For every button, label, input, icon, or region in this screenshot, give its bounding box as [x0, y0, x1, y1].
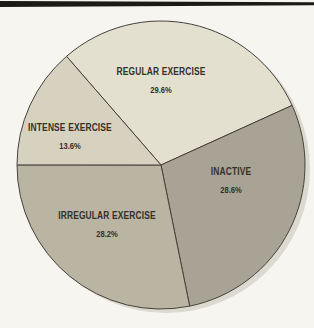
slice-percent: 29.6%	[117, 85, 206, 95]
slice-percent: 28.2%	[58, 229, 156, 239]
slice-label-regular-exercise: REGULAR EXERCISE 29.6%	[105, 66, 216, 95]
slice-name: INACTIVE	[211, 166, 251, 177]
pie-chart-figure: REGULAR EXERCISE 29.6% INACTIVE 28.6% IR…	[0, 0, 314, 328]
slice-name: IRREGULAR EXERCISE	[58, 210, 156, 221]
slice-label-irregular-exercise: IRREGULAR EXERCISE 28.2%	[46, 210, 168, 239]
slice-percent: 28.6%	[211, 185, 251, 195]
slice-label-intense-exercise: INTENSE EXERCISE 13.6%	[18, 122, 123, 151]
slice-name: INTENSE EXERCISE	[28, 122, 112, 133]
slice-name: REGULAR EXERCISE	[117, 66, 206, 77]
pie-chart	[0, 0, 314, 328]
slice-percent: 13.6%	[28, 141, 112, 151]
slice-label-inactive: INACTIVE 28.6%	[206, 166, 257, 195]
